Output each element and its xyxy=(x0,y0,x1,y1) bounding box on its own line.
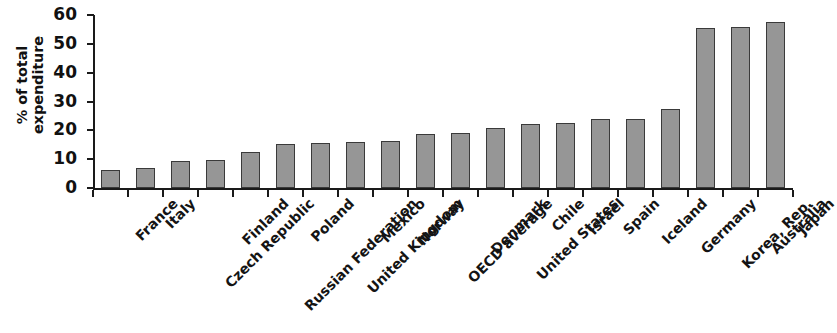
bar xyxy=(276,144,296,188)
bar xyxy=(171,161,191,188)
bar xyxy=(486,128,506,188)
bar xyxy=(136,168,156,188)
y-tick-label-60: 60 xyxy=(53,4,77,24)
y-axis-title-line-1: % of total xyxy=(14,36,30,134)
bar xyxy=(766,22,786,188)
bar xyxy=(731,27,751,188)
plot-area: 0102030405060 xyxy=(93,15,793,189)
bar xyxy=(311,143,331,188)
x-axis-label: Denmark xyxy=(487,195,549,257)
bar xyxy=(241,152,261,188)
bar xyxy=(626,119,646,188)
bar xyxy=(521,124,541,188)
y-tick-label-30: 30 xyxy=(53,90,77,110)
x-axis-label-text: Spain xyxy=(619,195,662,238)
x-axis-labels: FranceItalyCzech RepublicFinlandRussian … xyxy=(93,191,793,331)
bar xyxy=(416,134,436,188)
y-tick-label-40: 40 xyxy=(53,61,77,81)
bar xyxy=(381,141,401,188)
x-axis-label: Spain xyxy=(619,195,662,238)
bar xyxy=(346,142,366,188)
bar xyxy=(696,28,716,188)
x-axis-label: Poland xyxy=(307,195,357,245)
bar xyxy=(101,170,121,188)
bar xyxy=(591,119,611,188)
y-axis-title: % of total expenditure xyxy=(5,0,55,170)
y-tick-label-50: 50 xyxy=(53,32,77,52)
y-tick-label-0: 0 xyxy=(65,177,77,197)
y-axis-title-line-2: expenditure xyxy=(30,36,46,134)
bar xyxy=(451,133,471,188)
bar xyxy=(661,109,681,188)
x-axis-label-text: Poland xyxy=(307,195,357,245)
y-tick-label-10: 10 xyxy=(53,148,77,168)
bar xyxy=(556,123,576,188)
y-tick-label-20: 20 xyxy=(53,119,77,139)
bar-series xyxy=(93,15,793,188)
x-axis-label-text: Denmark xyxy=(487,195,549,257)
bar xyxy=(206,160,226,188)
